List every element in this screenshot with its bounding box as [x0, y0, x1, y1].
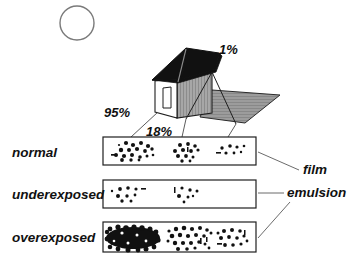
leader-film	[258, 152, 299, 170]
reflectance-label-wall-shadow: 18%	[146, 125, 172, 138]
reflectance-label-sky: 1%	[219, 43, 238, 56]
callout-label-emulsion: emulsion	[287, 186, 346, 200]
sun-icon	[60, 6, 94, 40]
reflectance-label-wall-lit: 95%	[104, 106, 130, 119]
leader-18	[182, 119, 186, 137]
door	[163, 87, 171, 108]
figure-canvas: 1% 95% 18% normal underexposed overexpos…	[0, 0, 352, 266]
leader-1	[228, 124, 236, 137]
strip-label-overexposed: overexposed	[12, 231, 95, 245]
strip-label-normal: normal	[12, 146, 57, 160]
strip-underexposed-box	[103, 180, 256, 208]
callout-label-film: film	[303, 163, 327, 177]
leader-emulsion-lower	[258, 202, 290, 238]
house-roof-left	[152, 48, 186, 80]
strip-label-underexposed: underexposed	[12, 188, 104, 202]
diagram-svg	[0, 0, 352, 266]
